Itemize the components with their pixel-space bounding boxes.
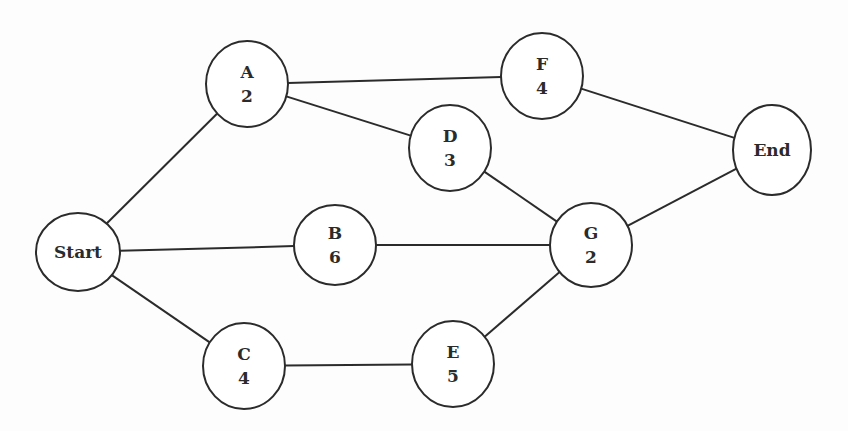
node-b: B 6 [328, 221, 342, 269]
node-start: Start [54, 240, 102, 264]
nodes-layer [36, 33, 811, 409]
node-end-label: End [753, 138, 790, 162]
node-a-duration: 2 [240, 84, 253, 108]
node-d-duration: 3 [443, 148, 458, 172]
node-b-name: B [328, 221, 342, 245]
node-c-name: C [237, 342, 251, 366]
node-e: E 5 [447, 340, 460, 388]
node-c: C 4 [237, 342, 251, 390]
node-start-label: Start [54, 240, 102, 264]
edge-f-end [581, 89, 734, 138]
node-e-name: E [447, 340, 460, 364]
node-f-name: F [536, 52, 548, 76]
node-d: D 3 [443, 124, 458, 172]
edge-a-d [286, 96, 410, 135]
node-c-duration: 4 [237, 366, 251, 390]
edge-d-g [484, 172, 557, 222]
edge-a-f [288, 77, 501, 83]
node-f: F 4 [536, 52, 548, 100]
node-b-duration: 6 [328, 245, 342, 269]
edge-start-c [112, 275, 210, 342]
diagram-canvas [0, 0, 848, 431]
edge-start-a [107, 114, 218, 224]
node-a-name: A [240, 60, 253, 84]
edge-g-end [627, 169, 736, 226]
node-e-duration: 5 [447, 364, 460, 388]
node-g-duration: 2 [584, 245, 599, 269]
node-g: G 2 [584, 221, 599, 269]
edge-c-e [285, 364, 412, 365]
edge-start-b [120, 246, 294, 251]
node-f-duration: 4 [536, 76, 548, 100]
node-g-name: G [584, 221, 599, 245]
node-a: A 2 [240, 60, 253, 108]
node-end: End [753, 138, 790, 162]
edge-e-g [485, 272, 560, 337]
activity-network-diagram: Start A 2 B 6 C 4 D 3 E 5 F 4 G 2 End [0, 0, 848, 431]
node-d-name: D [443, 124, 458, 148]
